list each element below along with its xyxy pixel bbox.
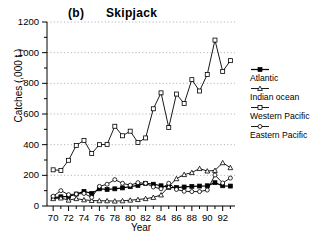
plot-area bbox=[47, 22, 235, 206]
data-point-marker bbox=[221, 181, 225, 185]
chart-legend: AtlanticIndian oceanWestern PacificEaste… bbox=[250, 66, 314, 142]
data-point-marker bbox=[113, 124, 117, 128]
data-point-marker bbox=[198, 184, 202, 188]
data-point-marker bbox=[190, 184, 194, 188]
data-point-marker bbox=[97, 184, 101, 188]
data-point-marker bbox=[213, 38, 217, 42]
data-point-marker bbox=[144, 181, 148, 185]
x-axis-label: Year bbox=[47, 222, 235, 233]
data-point-marker bbox=[82, 138, 86, 142]
legend-label: Western Pacific bbox=[250, 111, 314, 122]
x-tick-label: 92 bbox=[215, 213, 231, 223]
data-point-marker bbox=[198, 89, 202, 93]
data-point-marker bbox=[121, 186, 125, 190]
y-tick-label: 0 bbox=[9, 201, 39, 211]
series-indian-ocean bbox=[51, 160, 233, 203]
y-tick-label: 800 bbox=[9, 78, 39, 88]
data-point-marker bbox=[174, 187, 178, 191]
data-point-marker bbox=[174, 92, 178, 96]
data-point-marker bbox=[205, 72, 209, 76]
data-point-marker bbox=[136, 141, 140, 145]
data-point-marker bbox=[105, 187, 109, 191]
data-point-marker bbox=[159, 187, 163, 191]
data-point-marker bbox=[128, 183, 132, 187]
data-point-marker bbox=[105, 182, 109, 186]
data-point-marker bbox=[59, 189, 63, 193]
legend-marker-western-pacific-icon bbox=[250, 104, 314, 111]
legend-label: Atlantic bbox=[250, 73, 314, 84]
data-point-marker bbox=[121, 181, 125, 185]
x-tick-label: 82 bbox=[138, 213, 154, 223]
data-point-marker bbox=[258, 125, 262, 129]
data-point-marker bbox=[228, 176, 232, 180]
data-point-marker bbox=[258, 106, 262, 110]
data-point-marker bbox=[213, 181, 217, 185]
legend-marker-atlantic-icon bbox=[250, 66, 314, 73]
data-point-marker bbox=[74, 196, 79, 200]
y-tick-label: 1200 bbox=[9, 17, 39, 27]
data-point-marker bbox=[190, 78, 194, 82]
data-point-marker bbox=[189, 170, 194, 174]
y-tick-label: 400 bbox=[9, 140, 39, 150]
data-point-marker bbox=[113, 178, 117, 182]
data-series-layer bbox=[51, 38, 233, 203]
data-point-marker bbox=[74, 192, 78, 196]
legend-entry[interactable]: Eastern Pacific bbox=[250, 123, 314, 141]
data-point-marker bbox=[113, 187, 117, 191]
data-point-marker bbox=[136, 181, 140, 185]
data-point-marker bbox=[67, 193, 71, 197]
series-line bbox=[53, 40, 230, 170]
data-point-marker bbox=[198, 190, 202, 194]
data-point-marker bbox=[82, 191, 86, 195]
x-tick-label: 76 bbox=[91, 213, 107, 223]
data-point-marker bbox=[167, 181, 171, 185]
legend-label: Indian ocean bbox=[250, 92, 314, 103]
y-tick-label: 600 bbox=[9, 109, 39, 119]
data-point-marker bbox=[228, 184, 232, 188]
data-point-marker bbox=[174, 176, 179, 180]
legend-marker-indian-ocean-icon bbox=[250, 85, 314, 92]
data-point-marker bbox=[59, 168, 63, 172]
x-tick-label: 84 bbox=[153, 213, 169, 223]
y-tick-label: 1000 bbox=[9, 48, 39, 58]
data-point-marker bbox=[105, 142, 109, 146]
gridlines bbox=[47, 22, 235, 175]
data-point-marker bbox=[159, 91, 163, 95]
data-point-marker bbox=[228, 59, 232, 63]
x-tick-label: 80 bbox=[122, 213, 138, 223]
y-tick-label: 200 bbox=[9, 170, 39, 180]
data-point-marker bbox=[213, 173, 217, 177]
series-line bbox=[53, 183, 230, 198]
legend-marker-eastern-pacific-icon bbox=[250, 123, 314, 130]
series-line bbox=[53, 163, 230, 201]
data-point-marker bbox=[90, 195, 94, 199]
data-point-marker bbox=[182, 189, 186, 193]
data-point-marker bbox=[167, 125, 171, 129]
data-point-marker bbox=[182, 102, 186, 106]
x-tick-label: 70 bbox=[45, 213, 61, 223]
data-point-marker bbox=[151, 107, 155, 111]
data-point-marker bbox=[228, 165, 233, 169]
data-point-marker bbox=[90, 152, 94, 156]
legend-entry[interactable]: Western Pacific bbox=[250, 104, 314, 122]
x-tick-label: 74 bbox=[76, 213, 92, 223]
data-point-marker bbox=[51, 194, 55, 198]
x-tick-label: 90 bbox=[199, 213, 215, 223]
x-tick-label: 88 bbox=[184, 213, 200, 223]
data-point-marker bbox=[205, 188, 209, 192]
data-point-marker bbox=[67, 158, 71, 162]
data-point-marker bbox=[190, 190, 194, 194]
data-point-marker bbox=[97, 143, 101, 147]
data-point-marker bbox=[221, 69, 225, 73]
data-point-marker bbox=[151, 185, 155, 189]
data-point-marker bbox=[258, 68, 262, 72]
data-point-marker bbox=[51, 168, 55, 172]
x-tick-label: 72 bbox=[61, 213, 77, 223]
series-western-pacific bbox=[51, 38, 232, 172]
chart-figure: (b) Skipjack Catches (,000 t ) Year 0200… bbox=[0, 0, 315, 242]
legend-entry[interactable]: Indian ocean bbox=[250, 85, 314, 103]
chart-title: (b) Skipjack bbox=[68, 6, 157, 20]
data-point-marker bbox=[121, 134, 125, 138]
legend-entry[interactable]: Atlantic bbox=[250, 66, 314, 84]
data-point-marker bbox=[128, 129, 132, 133]
